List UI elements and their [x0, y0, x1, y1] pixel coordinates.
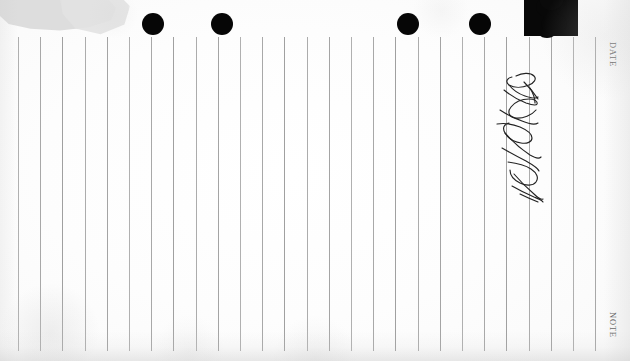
ink-blot-top-right	[524, 0, 578, 36]
ruled-line	[196, 37, 197, 351]
hole-4	[469, 13, 491, 35]
ruled-line	[173, 37, 174, 351]
ruled-line	[240, 37, 241, 351]
vertical-signature-scribble	[486, 66, 564, 206]
ruled-line	[62, 37, 63, 351]
edge-label-date: DATE	[608, 42, 618, 67]
edge-label-note: NOTE	[608, 312, 618, 338]
ruled-line	[262, 37, 263, 351]
scanned-note-page: DATE NOTE	[0, 0, 630, 361]
ruled-line	[440, 37, 441, 351]
hole-2	[211, 13, 233, 35]
ruled-line	[573, 37, 574, 351]
ruled-line	[129, 37, 130, 351]
ruled-line	[329, 37, 330, 351]
ruled-line	[218, 37, 219, 351]
ruled-line	[307, 37, 308, 351]
ruled-line	[595, 37, 596, 351]
ruled-line	[418, 37, 419, 351]
ruled-line	[373, 37, 374, 351]
hole-1	[142, 13, 164, 35]
hole-3	[397, 13, 419, 35]
ruled-line	[107, 37, 108, 351]
ruled-line	[462, 37, 463, 351]
ruled-line	[85, 37, 86, 351]
ruled-line	[40, 37, 41, 351]
ruled-line	[151, 37, 152, 351]
ruled-line	[351, 37, 352, 351]
ruled-line	[395, 37, 396, 351]
ruled-line	[284, 37, 285, 351]
ruled-line	[18, 37, 19, 351]
